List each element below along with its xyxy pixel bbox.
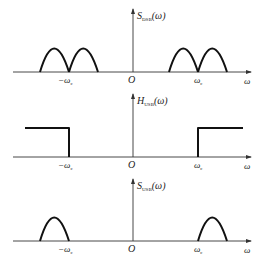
origin-label: O [128,243,135,254]
tick-pos-wc: ωc [194,75,203,86]
y-axis-label: SDSB(ω) [137,10,166,22]
tick-pos-wc: ωc [194,160,203,171]
panel-s-dsb: SDSB(ω) O −ωc ωc ω [13,9,251,86]
lobe-neg-lower [40,49,69,73]
filter-pos-band [198,128,243,157]
y-axis-label: HUSB(ω) [136,95,168,107]
lobe-pos-lower [169,49,198,73]
y-axis-label: SUSB(ω) [137,180,166,192]
panel-h-usb: HUSB(ω) O −ωc ωc ω [13,94,251,171]
tick-neg-wc: −ωc [58,160,73,171]
lobe-neg-upper [40,218,69,242]
tick-neg-wc: −ωc [58,244,73,255]
panel-s-usb: SUSB(ω) O −ωc ωc ω [13,179,251,255]
tick-neg-wc: −ωc [58,75,73,86]
origin-label: O [128,74,135,85]
x-axis-label: ω [244,161,250,171]
filter-neg-band [25,128,69,157]
lobe-pos-upper [198,218,227,242]
x-axis-label: ω [244,245,250,255]
x-axis-label: ω [244,76,250,86]
lobe-neg-upper [69,49,98,73]
sideband-diagram: SDSB(ω) O −ωc ωc ω HUSB(ω) O −ωc ωc ω SU… [0,0,265,265]
tick-pos-wc: ωc [194,244,203,255]
origin-label: O [128,159,135,170]
lobe-pos-upper [198,49,227,73]
